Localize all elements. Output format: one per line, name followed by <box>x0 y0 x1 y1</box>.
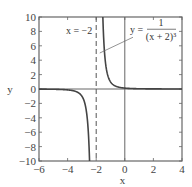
function-label-denominator: (x + 2)³ <box>146 31 176 43</box>
y-tick-label: −2 <box>24 97 36 109</box>
y-tick-label: 6 <box>31 40 37 52</box>
y-tick-label: 8 <box>31 25 37 37</box>
y-tick-label: 4 <box>31 54 37 66</box>
x-tick-label: 4 <box>179 163 185 175</box>
curve-left-branch <box>39 89 90 161</box>
x-tick-label: 2 <box>151 163 157 175</box>
y-axis-label: y <box>7 83 13 95</box>
x-tick-label: −2 <box>90 163 102 175</box>
function-plot: −6−4−2024−10−8−6−4−20246810xyx = −2y =1(… <box>0 0 192 187</box>
y-tick-label: 2 <box>31 69 37 81</box>
y-tick-label: −4 <box>24 112 36 124</box>
y-tick-label: −6 <box>24 126 36 138</box>
x-axis-label: x <box>120 174 126 186</box>
x-tick-label: −4 <box>62 163 74 175</box>
y-tick-label: 10 <box>25 11 37 23</box>
function-label-numerator: 1 <box>159 17 164 28</box>
y-tick-label: −10 <box>19 155 37 167</box>
y-tick-label: −8 <box>24 141 36 153</box>
asymptote-label: x = −2 <box>66 25 92 36</box>
y-tick-label: 0 <box>31 83 37 95</box>
function-label-lhs: y = <box>130 24 144 35</box>
